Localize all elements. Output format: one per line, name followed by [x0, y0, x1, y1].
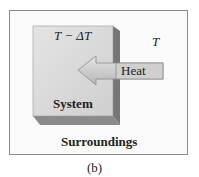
- figure-caption: (b): [87, 160, 102, 176]
- box-bottom-face: [33, 116, 120, 125]
- surroundings-temperature-label: T: [152, 34, 159, 50]
- surroundings-label: Surroundings: [61, 134, 137, 150]
- system-label: System: [53, 96, 93, 112]
- system-temperature-label: T − ΔT: [54, 28, 91, 44]
- heat-label: Heat: [121, 63, 146, 79]
- system-box-diagram: [0, 0, 199, 177]
